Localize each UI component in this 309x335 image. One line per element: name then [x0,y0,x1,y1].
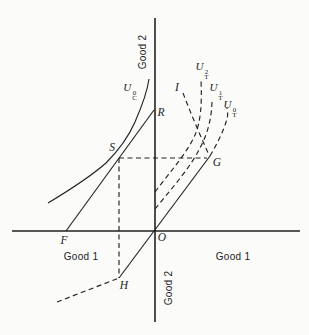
curve-label-ut2: U2T [195,61,208,81]
curve-label-subsup-stack: 2T [204,70,208,81]
axis-label-good1-left: Good 1 [64,252,99,262]
curve-label-subsup-stack: 0T [232,108,236,119]
curve-label-subscript: C [132,96,137,102]
point-label-H: H [120,280,128,292]
point-label-G: G [213,157,221,169]
axis-label-good2-top: Good 2 [138,35,148,70]
curve-label-base: U [223,98,231,110]
curve-label-base: U [195,60,203,72]
axis-label-good1-right: Good 1 [216,252,251,262]
axis-label-good2-bottom: Good 2 [164,271,174,306]
point-label-S: S [109,142,115,154]
price-line-H-O-G [119,156,210,278]
trade-indifference-diagram: Good 2Good 2Good 1Good 1RSGFOHIU0CU2TU1T… [0,0,309,335]
curve-label-uc0: U0C [123,82,137,102]
curve-label-subscript: T [204,75,208,81]
point-label-O: O [158,232,166,244]
price-line-F-S-R [66,110,154,231]
line-I-G [183,93,209,155]
curve-label-ut0: U0T [223,99,236,119]
curve-label-base: U [123,81,131,93]
diagram-canvas [0,0,309,335]
curve-label-subscript: T [232,113,236,119]
curve-label-subsup-stack: 1T [218,91,222,102]
trade-indifference-ut2 [155,80,201,192]
curve-label-ut1: U1T [209,82,222,102]
point-label-R: R [157,107,164,119]
point-label-I: I [175,82,179,94]
offer-tail-dashed [57,278,119,302]
curve-label-subscript: T [218,96,222,102]
curve-label-subsup-stack: 0C [132,91,137,102]
point-label-F: F [60,235,67,247]
curve-label-base: U [209,81,217,93]
